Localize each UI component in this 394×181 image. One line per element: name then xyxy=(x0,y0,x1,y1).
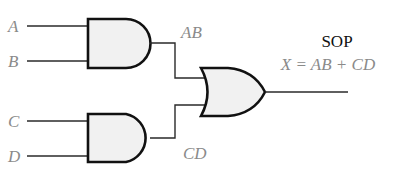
boolean-expression: X = AB + CD xyxy=(280,55,376,74)
wire-ab xyxy=(150,43,205,78)
input-label-c: C xyxy=(8,112,20,131)
and-gate-cd xyxy=(88,114,146,162)
input-label-d: D xyxy=(7,147,21,166)
input-label-b: B xyxy=(8,52,19,71)
diagram-title: SOP xyxy=(321,32,352,51)
wire-cd xyxy=(150,105,205,138)
or-gate xyxy=(201,68,265,116)
input-label-a: A xyxy=(7,17,19,36)
label-cd: CD xyxy=(183,144,207,163)
logic-diagram: A B C D AB CD SOP X = AB + CD xyxy=(0,0,394,181)
and-gate-ab xyxy=(88,19,150,68)
label-ab: AB xyxy=(180,23,202,42)
